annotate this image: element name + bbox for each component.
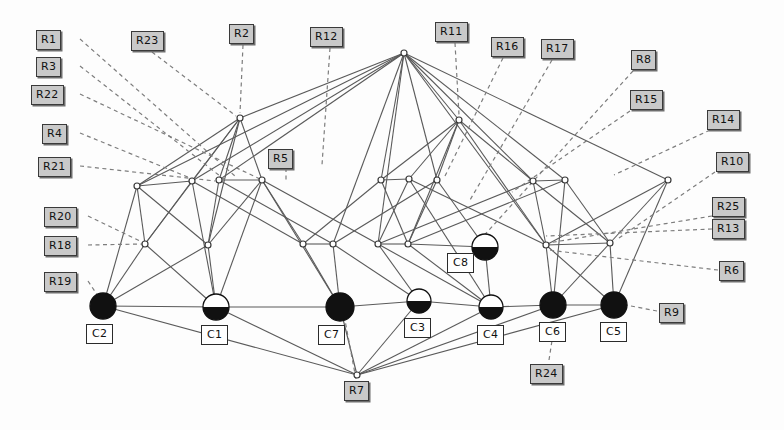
rule-label-r11[interactable]: R11: [435, 22, 468, 42]
concept-node-c2[interactable]: [90, 293, 116, 319]
rule-label-r14[interactable]: R14: [707, 110, 740, 130]
graph-edge: [333, 244, 419, 301]
inner-node-m2[interactable]: [189, 178, 195, 184]
graph-edge: [303, 180, 381, 244]
concept-label-c5[interactable]: C5: [600, 322, 627, 342]
concept-label-c4[interactable]: C4: [477, 325, 504, 345]
node-lower-half: [479, 307, 503, 319]
leader-line-r9: [626, 305, 657, 311]
node-body: [90, 293, 116, 319]
rule-label-r13[interactable]: R13: [712, 219, 745, 239]
rule-label-r21[interactable]: R21: [38, 157, 71, 177]
rule-label-r17[interactable]: R17: [541, 39, 574, 59]
inner-node-l5[interactable]: [375, 241, 381, 247]
graph-edge: [381, 120, 459, 180]
inner-node-m1[interactable]: [134, 183, 140, 189]
graph-edge: [381, 179, 409, 180]
rule-label-r6[interactable]: R6: [719, 261, 744, 281]
leader-line-r14: [614, 130, 710, 175]
concept-node-c1[interactable]: [203, 294, 229, 320]
rule-label-r18[interactable]: R18: [44, 236, 77, 256]
leader-line-r19: [88, 281, 98, 296]
graph-edge: [137, 186, 145, 244]
graph-edge: [533, 180, 565, 181]
graph-edge: [333, 53, 404, 244]
inner-node-l8[interactable]: [607, 240, 613, 246]
node-lower-half: [472, 247, 498, 260]
inner-node-m10[interactable]: [665, 177, 671, 183]
rule-label-r5[interactable]: R5: [268, 149, 293, 169]
rule-label-r2[interactable]: R2: [229, 24, 254, 44]
rule-label-r1[interactable]: R1: [36, 30, 61, 50]
inner-node-l2[interactable]: [205, 242, 211, 248]
network-diagram-canvas: R1R3R22R4R21R20R18R19R23R2R12R11R16R17R8…: [0, 0, 784, 430]
inner-node-m7[interactable]: [434, 177, 440, 183]
graph-edge: [546, 243, 610, 245]
graph-edge: [378, 53, 404, 244]
node-body: [326, 293, 354, 321]
concept-node-c6[interactable]: [540, 292, 566, 318]
graph-edge: [404, 53, 437, 180]
rule-label-r10[interactable]: R10: [716, 152, 749, 172]
inner-node-m3[interactable]: [216, 177, 222, 183]
concept-label-c1[interactable]: C1: [201, 325, 228, 345]
graph-edge: [137, 186, 208, 245]
concept-node-c5[interactable]: [601, 292, 627, 318]
graph-edge: [219, 118, 240, 180]
graph-edge: [240, 53, 404, 118]
concept-label-c3[interactable]: C3: [404, 318, 431, 338]
graph-edge: [381, 53, 404, 180]
leader-line-r2: [240, 45, 243, 113]
rule-label-r25[interactable]: R25: [712, 197, 745, 217]
rule-label-r22[interactable]: R22: [31, 85, 64, 105]
concept-label-c6[interactable]: C6: [539, 322, 566, 342]
inner-node-m4[interactable]: [259, 177, 265, 183]
concept-label-c7[interactable]: C7: [318, 325, 345, 345]
concept-node-c3[interactable]: [407, 289, 431, 313]
rule-label-r7[interactable]: R7: [344, 381, 369, 401]
concept-node-c7[interactable]: [326, 293, 354, 321]
rule-label-r20[interactable]: R20: [44, 207, 77, 227]
concept-label-c2[interactable]: C2: [86, 324, 113, 344]
inner-node-m8[interactable]: [530, 178, 536, 184]
inner-node-l1[interactable]: [142, 241, 148, 247]
leader-line-r1: [80, 39, 236, 177]
inner-node-l6[interactable]: [405, 241, 411, 247]
network-graph-svg: [0, 0, 784, 430]
graph-edge: [192, 181, 303, 244]
inner-node-m5[interactable]: [378, 177, 384, 183]
inner-node-l4[interactable]: [330, 241, 336, 247]
leader-line-r23: [152, 52, 236, 116]
inner-node-m9[interactable]: [562, 177, 568, 183]
graph-edge: [192, 181, 216, 307]
rule-label-r16[interactable]: R16: [491, 37, 524, 57]
inner-node-u2[interactable]: [456, 117, 462, 123]
graph-edge: [103, 186, 137, 306]
rule-label-r4[interactable]: R4: [42, 124, 67, 144]
rule-label-r24[interactable]: R24: [530, 364, 563, 384]
rule-label-r8[interactable]: R8: [631, 50, 656, 70]
node-body: [540, 292, 566, 318]
leader-line-r18: [88, 244, 142, 245]
concept-node-c4[interactable]: [479, 295, 503, 319]
leader-line-r22: [80, 94, 260, 179]
leader-line-r6: [548, 250, 718, 270]
inner-node-t1[interactable]: [401, 50, 407, 56]
graph-edge: [208, 180, 219, 245]
concept-label-c8[interactable]: C8: [447, 253, 474, 273]
concept-node-c8[interactable]: [472, 234, 498, 260]
inner-node-u1[interactable]: [237, 115, 243, 121]
inner-node-l7[interactable]: [543, 242, 549, 248]
graph-edge: [459, 120, 533, 181]
rule-label-r19[interactable]: R19: [44, 272, 77, 292]
graph-edge: [262, 180, 378, 244]
inner-node-l3[interactable]: [300, 241, 306, 247]
rule-label-r12[interactable]: R12: [310, 27, 343, 47]
leader-line-r8: [480, 71, 633, 240]
inner-node-b1[interactable]: [354, 372, 360, 378]
rule-label-r23[interactable]: R23: [131, 31, 164, 51]
rule-label-r15[interactable]: R15: [630, 90, 663, 110]
rule-label-r3[interactable]: R3: [36, 57, 61, 77]
rule-label-r9[interactable]: R9: [659, 303, 684, 323]
inner-node-m6[interactable]: [406, 176, 412, 182]
